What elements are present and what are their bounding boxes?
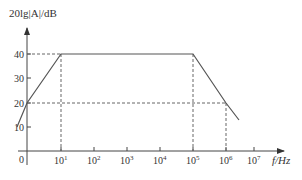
magnitude-line	[17, 54, 239, 127]
x-tick-label: 104	[153, 154, 167, 166]
x-axis-title: f/Hz	[272, 154, 291, 166]
y-tick-label: 40	[14, 49, 24, 60]
x-tick-label: 101	[54, 154, 68, 166]
x-tick-label: 106	[219, 154, 233, 166]
y-axis-title: 20lg|A|/dB	[9, 7, 57, 19]
x-tick-label: 105	[186, 154, 200, 166]
y-ticks: 10 20 30 40	[14, 49, 31, 133]
x-tick-label: 102	[87, 154, 101, 166]
x-tick-label: 107	[247, 154, 261, 166]
x-ticks: 0 101 102 103 104 105 106 107 f/Hz	[19, 147, 291, 166]
reference-lines	[27, 54, 226, 151]
x-origin-label: 0	[19, 154, 24, 165]
y-tick-label: 20	[14, 98, 24, 109]
x-tick-label: 103	[120, 154, 134, 166]
bode-plot: 20lg|A|/dB 10 20 30 40 0 101 102 103 104…	[0, 0, 302, 180]
y-tick-label: 30	[14, 73, 24, 84]
